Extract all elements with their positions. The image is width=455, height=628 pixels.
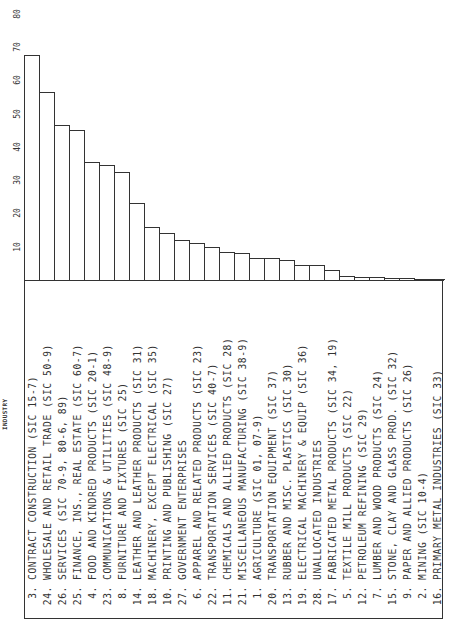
category-name: GOVERNMENT ENTERPRISES xyxy=(177,440,188,580)
category-name: CHEMICALS AND ALLIED PRODUCTS (SIC 28) xyxy=(222,338,233,580)
category-number: 4. xyxy=(85,586,100,614)
category-name: TRANSPORTATION EQUIPMENT (SIC 37) xyxy=(267,370,278,580)
category-name: SERVICES (SIC 70-9, 80-6, 89) xyxy=(57,395,68,580)
category-number: 24. xyxy=(40,586,55,614)
tick-label: 40 xyxy=(14,137,22,157)
category-number: 28. xyxy=(310,586,325,614)
category-name: TRANSPORTATION SERVICES (SIC 40-7) xyxy=(207,363,218,580)
category-number: 22. xyxy=(205,586,220,614)
bar xyxy=(249,258,265,280)
category-name: PRIMARY METAL INDUSTRIES (SIC 33) xyxy=(432,370,443,580)
category-number: 8. xyxy=(115,586,130,614)
category-label: 16.PRIMARY METAL INDUSTRIES (SIC 33) xyxy=(430,370,445,614)
category-name: MINING (SIC 10-4) xyxy=(417,472,428,580)
bar xyxy=(219,252,235,280)
bar xyxy=(309,265,325,280)
bar xyxy=(54,125,70,280)
category-label: 19.ELECTRICAL MACHINERY & EQUIP (SIC 36) xyxy=(295,344,310,614)
bar xyxy=(324,270,340,280)
category-number: 16. xyxy=(430,586,445,614)
industry-bar-chart: 1020304050607080 3.CONTRACT CONSTRUCTION… xyxy=(0,0,455,628)
bar xyxy=(39,92,55,280)
category-label: 21.MISCELLANEOUS MANUFACTURING (SIC 38-9… xyxy=(235,338,250,614)
category-label: 12.PETROLEUM REFINING (SIC 29) xyxy=(355,408,370,614)
category-number: 12. xyxy=(355,586,370,614)
bar xyxy=(129,203,145,280)
category-label: 9.PAPER AND ALLIED PRODUCTS (SIC 26) xyxy=(400,363,415,614)
category-number: 11. xyxy=(220,586,235,614)
category-label: 26.SERVICES (SIC 70-9, 80-6, 89) xyxy=(55,395,70,614)
tick-label: 10 xyxy=(14,237,22,257)
bar xyxy=(144,227,160,280)
category-label: 8.FURNITURE AND FIXTURES (SIC 25) xyxy=(115,382,130,614)
bar xyxy=(174,240,190,280)
category-label: 23.COMMUNICATIONS & UTILITIES (SIC 48-9) xyxy=(100,344,115,614)
category-label: 7.LUMBER AND WOOD PRODUCTS (SIC 24) xyxy=(370,370,385,614)
category-label: 17.FABRICATED METAL PRODUCTS (SIC 34, 19… xyxy=(325,338,340,614)
category-name: WHOLESALE AND RETAIL TRADE (SIC 50-9) xyxy=(42,344,53,580)
bar xyxy=(264,258,280,280)
category-number: 27. xyxy=(175,586,190,614)
category-name: PRINTING AND PUBLISHING (SIC 27) xyxy=(162,376,173,580)
category-number: 21. xyxy=(235,586,250,614)
category-number: 2. xyxy=(415,586,430,614)
category-label: 3.CONTRACT CONSTRUCTION (SIC 15-7) xyxy=(25,376,40,614)
category-number: 1. xyxy=(250,586,265,614)
category-label: 22.TRANSPORTATION SERVICES (SIC 40-7) xyxy=(205,363,220,614)
category-name: FURNITURE AND FIXTURES (SIC 25) xyxy=(117,382,128,580)
bar xyxy=(279,260,295,280)
category-name: FABRICATED METAL PRODUCTS (SIC 34, 19) xyxy=(327,338,338,580)
category-number: 19. xyxy=(295,586,310,614)
category-label: 5.TEXTILE MILL PRODUCTS (SIC 22) xyxy=(340,389,355,614)
category-number: 17. xyxy=(325,586,340,614)
category-name: UNALLOCATED INDUSTRIES xyxy=(312,440,323,580)
category-name: AGRICULTURE (SIC 01, 07-9) xyxy=(252,414,263,580)
category-name: STONE, CLAY AND GLASS PROD. (SIC 32) xyxy=(387,350,398,580)
category-number: 9. xyxy=(400,586,415,614)
category-name: TEXTILE MILL PRODUCTS (SIC 22) xyxy=(342,389,353,580)
category-number: 14. xyxy=(130,586,145,614)
category-label: 13.RUBBER AND MISC. PLASTICS (SIC 30) xyxy=(280,363,295,614)
bar xyxy=(294,265,310,280)
tick-label: 30 xyxy=(14,170,22,190)
bar xyxy=(69,130,85,280)
category-name: COMMUNICATIONS & UTILITIES (SIC 48-9) xyxy=(102,344,113,580)
category-label: 6.APPAREL AND RELATED PRODUCTS (SIC 23) xyxy=(190,344,205,614)
bar xyxy=(159,233,175,280)
category-name: MISCELLANEOUS MANUFACTURING (SIC 38-9) xyxy=(237,338,248,580)
category-label: 14.LEATHER AND LEATHER PRODUCTS (SIC 31) xyxy=(130,344,145,614)
category-label: 4.FOOD AND KINDRED PRODUCTS (SIC 20-1) xyxy=(85,350,100,614)
category-label: 1.AGRICULTURE (SIC 01, 07-9) xyxy=(250,414,265,614)
category-label: 18.MACHINERY, EXCEPT ELECTRICAL (SIC 35) xyxy=(145,344,160,614)
category-number: 23. xyxy=(100,586,115,614)
category-label: 25.FINANCE, INS., REAL ESTATE (SIC 60-7) xyxy=(70,344,85,614)
category-number: 7. xyxy=(370,586,385,614)
category-number: 26. xyxy=(55,586,70,614)
category-number: 6. xyxy=(190,586,205,614)
category-number: 15. xyxy=(385,586,400,614)
bar xyxy=(24,55,40,280)
category-number: 18. xyxy=(145,586,160,614)
category-name: RUBBER AND MISC. PLASTICS (SIC 30) xyxy=(282,363,293,580)
tick-label: 60 xyxy=(14,70,22,90)
category-label: 10.PRINTING AND PUBLISHING (SIC 27) xyxy=(160,376,175,614)
bar xyxy=(234,253,250,280)
category-name: PETROLEUM REFINING (SIC 29) xyxy=(357,408,368,580)
category-label: 24.WHOLESALE AND RETAIL TRADE (SIC 50-9) xyxy=(40,344,55,614)
bar xyxy=(204,247,220,280)
category-number: 10. xyxy=(160,586,175,614)
category-label: 20.TRANSPORTATION EQUIPMENT (SIC 37) xyxy=(265,370,280,614)
category-number: 3. xyxy=(25,586,40,614)
category-name: ELECTRICAL MACHINERY & EQUIP (SIC 36) xyxy=(297,344,308,580)
bar xyxy=(84,162,100,280)
category-label: 11.CHEMICALS AND ALLIED PRODUCTS (SIC 28… xyxy=(220,338,235,614)
bar xyxy=(114,172,130,280)
bar xyxy=(189,243,205,280)
tick-label: 20 xyxy=(14,203,22,223)
category-name: LEATHER AND LEATHER PRODUCTS (SIC 31) xyxy=(132,344,143,580)
bar xyxy=(99,165,115,280)
category-label: 2.MINING (SIC 10-4) xyxy=(415,472,430,614)
category-number: 13. xyxy=(280,586,295,614)
tick-label: 80 xyxy=(14,4,22,24)
category-name: CONTRACT CONSTRUCTION (SIC 15-7) xyxy=(27,376,38,580)
